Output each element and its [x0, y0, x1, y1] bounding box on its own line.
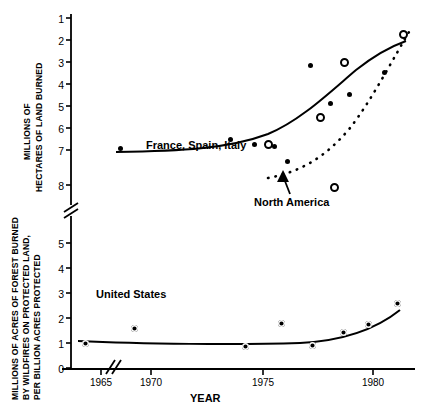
lower-y-axis-title-line2: BY WILDFIRES ON PROTECTED LAND,: [21, 235, 31, 400]
lower-ytick-3: 3: [50, 288, 64, 300]
upper-y-axis-title-line1: MILLIONS OF: [22, 103, 32, 160]
data-point-united-states: [394, 300, 401, 307]
data-point-fsi: [328, 101, 333, 106]
xtick-1970: 1970: [134, 377, 168, 388]
data-point-fsi: [347, 92, 352, 97]
data-point-united-states: [340, 329, 347, 336]
north-america-arrow: [279, 172, 291, 194]
upper-y-tickmarks: [66, 18, 71, 185]
data-point-north-america: [399, 30, 408, 39]
data-point-north-america: [340, 58, 349, 67]
data-point-united-states: [242, 343, 249, 350]
data-point-fsi: [228, 137, 233, 142]
lower-y-tickmarks: [66, 243, 71, 368]
xtick-1980: 1980: [356, 377, 390, 388]
lower-ytick-5: 5: [50, 238, 64, 250]
data-point-fsi: [308, 63, 313, 68]
data-point-fsi: [285, 159, 290, 164]
upper-ytick-1: 1: [50, 13, 64, 25]
x-tickmarks: [101, 369, 373, 375]
upper-ytick-5: 5: [50, 101, 64, 113]
xtick-1965: 1965: [84, 377, 118, 388]
upper-ytick-3: 3: [50, 57, 64, 69]
data-point-united-states: [278, 320, 285, 327]
data-point-north-america: [330, 183, 339, 192]
trend-line-united-states: [78, 310, 400, 344]
series-label-united-states: United States: [96, 288, 166, 300]
lower-y-axis-title-line3: PER BILLION ACRES PROTECTED: [32, 254, 42, 400]
data-point-united-states: [365, 321, 372, 328]
upper-y-axis-title-line2: HECTARES OF LAND BURNED: [34, 62, 44, 192]
y-axis-break-icon: [64, 203, 78, 218]
lower-ytick-0: 0: [50, 363, 64, 375]
upper-ytick-6: 6: [50, 123, 64, 135]
xtick-1975: 1975: [246, 377, 280, 388]
lower-ytick-4: 4: [50, 263, 64, 275]
upper-ytick-4: 4: [50, 79, 64, 91]
trend-line-france-spain-italy: [116, 41, 406, 152]
data-point-united-states: [131, 325, 138, 332]
data-point-fsi: [252, 142, 257, 147]
x-axis-title: YEAR: [190, 392, 221, 404]
lower-y-axis-title-line1: MILLIONS OF ACRES OF FOREST BURNED: [10, 217, 20, 400]
data-point-north-america: [264, 140, 273, 149]
x-axis-break-icon: [106, 360, 121, 374]
upper-ytick-2: 2: [50, 35, 64, 47]
upper-ytick-8: 8: [50, 180, 64, 192]
trend-line-north-america: [268, 27, 412, 178]
data-point-fsi: [118, 146, 123, 151]
data-point-united-states: [309, 342, 316, 349]
data-point-united-states: [82, 340, 89, 347]
series-label-north-america: North America: [254, 196, 329, 208]
chart-plot-area: [0, 0, 433, 410]
data-point-north-america: [316, 113, 325, 122]
upper-ytick-7: 7: [50, 145, 64, 157]
lower-ytick-1: 1: [50, 338, 64, 350]
data-point-fsi: [382, 70, 387, 75]
lower-ytick-2: 2: [50, 313, 64, 325]
chart-figure: MILLIONS OF HECTARES OF LAND BURNED 1 2 …: [0, 0, 433, 410]
